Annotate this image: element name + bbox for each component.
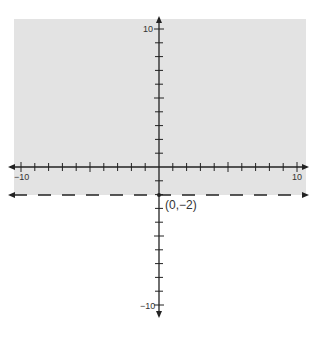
inequality-graph: (0,−2) −10 10 10 −10 <box>0 0 312 342</box>
boundary-point <box>157 193 161 197</box>
x-min-label: −10 <box>14 172 29 182</box>
x-axis-left-arrow-icon <box>8 164 15 170</box>
boundary-left-arrow-icon <box>8 192 15 198</box>
y-axis-down-arrow-icon <box>156 311 162 318</box>
y-min-label: −10 <box>140 301 155 311</box>
point-label: (0,−2) <box>165 198 197 212</box>
x-max-label: 10 <box>292 172 302 182</box>
y-max-label: 10 <box>143 24 153 34</box>
shaded-region <box>14 19 306 195</box>
